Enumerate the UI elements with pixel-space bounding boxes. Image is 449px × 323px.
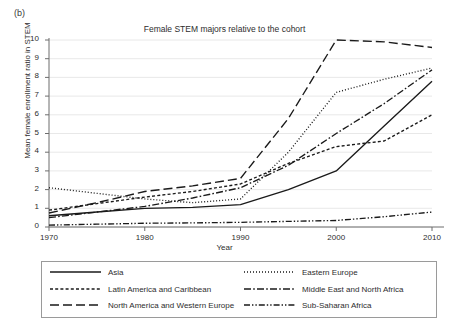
y-tick-label: 9 bbox=[25, 53, 39, 62]
series-line-middle-east-and-north-africa bbox=[49, 70, 432, 218]
legend-label: Eastern Europe bbox=[302, 268, 358, 277]
x-tick-label: 1970 bbox=[29, 233, 69, 242]
y-tick-label: 1 bbox=[25, 202, 39, 211]
y-tick-label: 3 bbox=[25, 165, 39, 174]
series-line-asia bbox=[49, 81, 432, 216]
y-tick-label: 5 bbox=[25, 128, 39, 137]
legend-label: North America and Western Europe bbox=[108, 301, 234, 310]
legend-label: Sub-Saharan Africa bbox=[302, 301, 371, 310]
y-tick-label: 4 bbox=[25, 146, 39, 155]
legend-label: Asia bbox=[108, 268, 124, 277]
legend-item[interactable]: Sub-Saharan Africa bbox=[242, 300, 371, 310]
legend-line-swatch bbox=[242, 267, 297, 277]
legend-label: Middle East and North Africa bbox=[302, 285, 403, 294]
y-tick-label: 0 bbox=[25, 221, 39, 230]
legend-item[interactable]: Asia bbox=[48, 267, 124, 277]
legend: AsiaEastern EuropeLatin America and Cari… bbox=[41, 261, 437, 318]
series-line-north-america-and-western-europe bbox=[49, 40, 432, 213]
legend-line-swatch bbox=[242, 300, 297, 310]
y-tick-label: 7 bbox=[25, 90, 39, 99]
plot-area bbox=[0, 0, 449, 260]
legend-line-swatch bbox=[48, 300, 103, 310]
y-tick-label: 8 bbox=[25, 71, 39, 80]
series-line-sub-saharan-africa bbox=[49, 212, 432, 225]
legend-item[interactable]: Middle East and North Africa bbox=[242, 284, 403, 294]
x-tick-label: 2000 bbox=[316, 233, 356, 242]
y-tick-label: 10 bbox=[25, 34, 39, 43]
legend-item[interactable]: North America and Western Europe bbox=[48, 300, 234, 310]
legend-item[interactable]: Eastern Europe bbox=[242, 267, 358, 277]
y-tick-label: 6 bbox=[25, 109, 39, 118]
series-line-latin-america-and-caribbean bbox=[49, 115, 432, 210]
legend-label: Latin America and Caribbean bbox=[108, 285, 211, 294]
legend-line-swatch bbox=[48, 267, 103, 277]
legend-line-swatch bbox=[242, 284, 297, 294]
x-tick-label: 1980 bbox=[125, 233, 165, 242]
chart-figure: (b) Female STEM majors relative to the c… bbox=[0, 0, 449, 323]
y-tick-label: 2 bbox=[25, 184, 39, 193]
legend-line-swatch bbox=[48, 284, 103, 294]
plot-svg bbox=[0, 0, 449, 260]
x-tick-label: 2010 bbox=[412, 233, 449, 242]
x-tick-label: 1990 bbox=[221, 233, 261, 242]
legend-item[interactable]: Latin America and Caribbean bbox=[48, 284, 211, 294]
